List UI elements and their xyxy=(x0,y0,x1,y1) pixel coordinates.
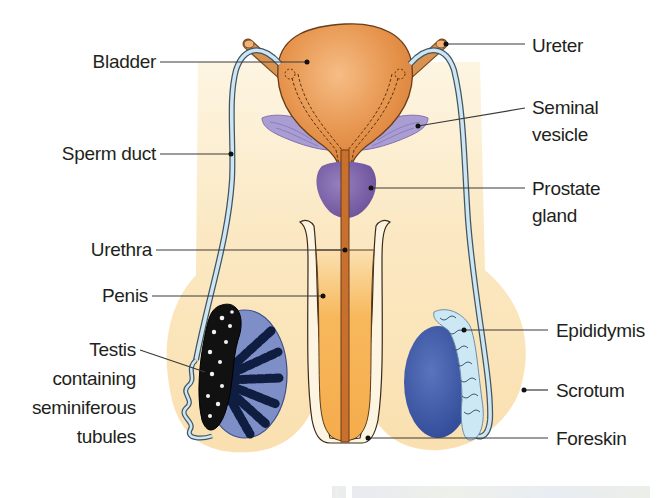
label-scrotum: Scrotum xyxy=(556,380,625,401)
label-testis-line1: Testis xyxy=(89,339,136,360)
right-labels: Ureter Seminal vesicle Prostate gland Ep… xyxy=(532,35,645,449)
label-testis-line2: containing xyxy=(52,368,136,389)
label-epididymis: Epididymis xyxy=(556,320,645,341)
label-urethra: Urethra xyxy=(91,239,153,260)
male-reproductive-system-diagram: Bladder Sperm duct Urethra Penis Testis … xyxy=(0,0,664,498)
label-ureter: Ureter xyxy=(532,35,584,56)
bottom-artifact-strip xyxy=(352,486,650,498)
label-testis-line3: seminiferous xyxy=(32,397,136,418)
label-foreskin: Foreskin xyxy=(556,428,626,449)
bottom-artifact-strip xyxy=(332,486,346,498)
label-penis: Penis xyxy=(102,285,148,306)
urethra xyxy=(341,150,349,442)
left-labels: Bladder Sperm duct Urethra Penis Testis … xyxy=(32,51,157,447)
label-seminal-vesicle-line2: vesicle xyxy=(532,124,588,145)
label-prostate-line2: gland xyxy=(532,205,577,226)
label-bladder: Bladder xyxy=(93,51,157,72)
label-prostate-line1: Prostate xyxy=(532,178,600,199)
label-testis-line4: tubules xyxy=(77,426,136,447)
label-seminal-vesicle-line1: Seminal xyxy=(532,97,599,118)
label-sperm-duct: Sperm duct xyxy=(62,143,157,164)
